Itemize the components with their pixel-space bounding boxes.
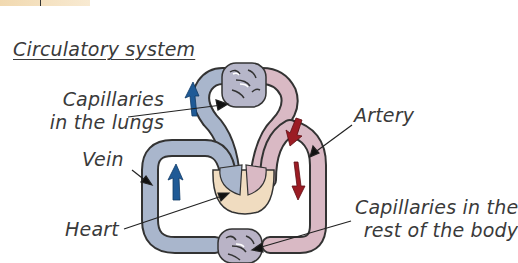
label-capillaries-lungs-line1: Capillaries: [14, 88, 164, 111]
label-capillaries-body-line2: rest of the body: [355, 219, 518, 242]
label-capillaries-body-line1: Capillaries in the: [355, 196, 518, 219]
red-flow-arrow-lower: [292, 162, 305, 200]
blue-flow-arrow-lower: [168, 164, 183, 200]
heart: [213, 165, 274, 214]
label-capillaries-body: Capillaries in the rest of the body: [355, 196, 518, 242]
label-vein: Vein: [82, 148, 124, 171]
vein-loop: [150, 148, 215, 245]
body-capillaries: [218, 229, 262, 263]
label-heart: Heart: [65, 218, 119, 241]
label-capillaries-lungs: Capillaries in the lungs: [14, 88, 164, 134]
label-artery: Artery: [354, 104, 414, 127]
lung-capillaries: [222, 63, 266, 107]
label-capillaries-lungs-line2: in the lungs: [14, 111, 164, 134]
